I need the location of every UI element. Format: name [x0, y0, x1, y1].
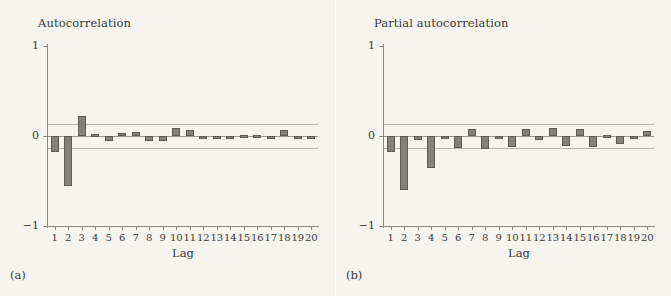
panel-a-y-tick-mark: [43, 226, 47, 227]
panel-b-x-tick-mark: [553, 226, 554, 230]
panel-a-y-tick-label: 1: [17, 39, 39, 52]
panel-a-x-tick-mark: [95, 226, 96, 230]
panel-b-y-tick-mark: [379, 46, 383, 47]
bar-lag-13: [549, 128, 557, 136]
panel-a-zero-line: [48, 136, 318, 137]
panel-b-x-tick-mark: [634, 226, 635, 230]
panel-b-x-tick-mark: [580, 226, 581, 230]
bar-lag-18: [280, 130, 288, 136]
panel-b-y-tick-label: 1: [353, 39, 375, 52]
bar-lag-2: [400, 136, 408, 190]
panel-a-x-tick-mark: [244, 226, 245, 230]
bar-lag-3: [414, 136, 422, 140]
panel-a-x-axis: [47, 226, 319, 227]
panel-autocorrelation: Autocorrelation Lag (a) 10−1123456789101…: [0, 0, 335, 296]
panel-b-caption: (b): [346, 268, 362, 282]
panel-a-x-tick-mark: [176, 226, 177, 230]
panel-a-x-tick-mark: [298, 226, 299, 230]
panel-b-x-tick-mark: [566, 226, 567, 230]
bar-lag-18: [616, 136, 624, 144]
bar-lag-19: [294, 136, 302, 139]
panel-a-x-tick-mark: [190, 226, 191, 230]
panel-b-y-tick-label: −1: [353, 219, 375, 232]
panel-a-y-tick-label: 0: [17, 129, 39, 142]
panel-a-x-tick-mark: [271, 226, 272, 230]
bar-lag-6: [454, 136, 462, 148]
bar-lag-8: [145, 136, 153, 141]
bar-lag-16: [253, 135, 261, 138]
panel-a-x-tick-mark: [136, 226, 137, 230]
bar-lag-3: [78, 116, 86, 136]
panel-a-x-tick-mark: [230, 226, 231, 230]
panel-a-x-axis-title: Lag: [48, 246, 318, 260]
panel-a-x-tick-mark: [109, 226, 110, 230]
panel-b-x-tick-mark: [620, 226, 621, 230]
panel-a-confidence-band: [48, 148, 318, 149]
bar-lag-2: [64, 136, 72, 186]
x-tick-label-20: 20: [637, 232, 657, 243]
panel-b-x-tick-mark: [647, 226, 648, 230]
panel-b-x-axis: [383, 226, 655, 227]
panel-a-x-tick-mark: [311, 226, 312, 230]
bar-lag-6: [118, 133, 126, 136]
bar-lag-20: [307, 136, 315, 139]
bar-lag-15: [576, 129, 584, 136]
bar-lag-14: [226, 136, 234, 139]
panel-b-x-axis-title: Lag: [384, 246, 654, 260]
panel-b-x-tick-mark: [512, 226, 513, 230]
panel-a-x-tick-mark: [55, 226, 56, 230]
panel-b-zero-line: [384, 136, 654, 137]
figure-container: Autocorrelation Lag (a) 10−1123456789101…: [0, 0, 671, 296]
panel-a-y-tick-mark: [43, 136, 47, 137]
panel-b-x-tick-mark: [499, 226, 500, 230]
panel-b-title: Partial autocorrelation: [374, 16, 509, 30]
panel-b-x-tick-mark: [391, 226, 392, 230]
panel-a-caption: (a): [10, 268, 26, 282]
panel-b-x-tick-mark: [445, 226, 446, 230]
panel-b-x-tick-mark: [593, 226, 594, 230]
bar-lag-1: [387, 136, 395, 152]
panel-b-confidence-band: [384, 148, 654, 149]
bar-lag-11: [522, 129, 530, 136]
panel-b-y-tick-mark: [379, 226, 383, 227]
panel-a-y-tick-mark: [43, 46, 47, 47]
panel-partial-autocorrelation: Partial autocorrelation Lag (b) 10−11234…: [336, 0, 671, 296]
panel-a-title: Autocorrelation: [38, 16, 131, 30]
bar-lag-16: [589, 136, 597, 147]
bar-lag-9: [159, 136, 167, 141]
bar-lag-20: [643, 131, 651, 136]
panel-b-x-tick-mark: [539, 226, 540, 230]
bar-lag-7: [468, 129, 476, 136]
panel-b-confidence-band: [384, 124, 654, 125]
panel-b-x-tick-mark: [404, 226, 405, 230]
panel-b-y-tick-label: 0: [353, 129, 375, 142]
panel-a-x-tick-mark: [149, 226, 150, 230]
x-tick-label-20: 20: [301, 232, 321, 243]
bar-lag-17: [603, 135, 611, 138]
bar-lag-10: [508, 136, 516, 147]
panel-a-x-tick-mark: [217, 226, 218, 230]
panel-a-x-tick-mark: [203, 226, 204, 230]
panel-b-x-tick-mark: [431, 226, 432, 230]
bar-lag-15: [240, 135, 248, 138]
panel-a-x-tick-mark: [122, 226, 123, 230]
bar-lag-12: [199, 136, 207, 139]
bar-lag-19: [630, 136, 638, 139]
bar-lag-14: [562, 136, 570, 146]
panel-b-x-tick-mark: [418, 226, 419, 230]
panel-a-x-tick-mark: [68, 226, 69, 230]
bar-lag-10: [172, 128, 180, 136]
bar-lag-9: [495, 136, 503, 139]
bar-lag-4: [91, 134, 99, 137]
panel-b-y-tick-mark: [379, 136, 383, 137]
panel-b-x-tick-mark: [485, 226, 486, 230]
bar-lag-13: [213, 136, 221, 139]
panel-a-y-tick-label: −1: [17, 219, 39, 232]
panel-b-x-tick-mark: [458, 226, 459, 230]
bar-lag-5: [441, 136, 449, 139]
panel-b-x-tick-mark: [526, 226, 527, 230]
panel-a-x-tick-mark: [163, 226, 164, 230]
bar-lag-4: [427, 136, 435, 168]
panel-a-x-tick-mark: [257, 226, 258, 230]
panel-b-x-tick-mark: [472, 226, 473, 230]
